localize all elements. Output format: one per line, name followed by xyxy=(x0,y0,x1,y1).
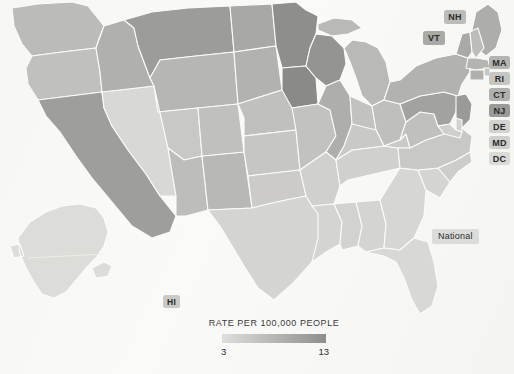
state-CT[interactable] xyxy=(470,70,484,80)
callout-national[interactable]: National xyxy=(432,229,479,244)
state-GA[interactable] xyxy=(380,168,426,250)
callout-VT[interactable]: VT xyxy=(423,31,445,45)
legend-title: RATE PER 100,000 PEOPLE xyxy=(199,318,349,328)
state-FL[interactable] xyxy=(366,238,438,314)
state-CO[interactable] xyxy=(198,104,244,156)
state-WA[interactable] xyxy=(12,2,104,56)
state-ND[interactable] xyxy=(230,4,276,52)
legend-gradient-bar xyxy=(222,334,326,343)
state-KS[interactable] xyxy=(244,130,300,176)
callout-DC[interactable]: DC xyxy=(489,152,510,165)
callout-MD[interactable]: MD xyxy=(489,136,510,149)
legend-tick-labels: 3 13 xyxy=(222,346,326,359)
callout-NH[interactable]: NH xyxy=(444,10,466,24)
callout-CT[interactable]: CT xyxy=(489,88,510,101)
legend: RATE PER 100,000 PEOPLE 3 13 xyxy=(199,318,349,359)
state-VT[interactable] xyxy=(456,32,472,58)
callout-NJ[interactable]: NJ xyxy=(489,104,510,117)
state-NM[interactable] xyxy=(202,152,252,210)
callout-RI[interactable]: RI xyxy=(489,72,510,85)
legend-min-label: 3 xyxy=(221,346,226,357)
state-TX[interactable] xyxy=(208,196,322,300)
callout-MA[interactable]: MA xyxy=(489,56,510,69)
choropleth-map-figure: VT NH MA RI CT NJ DE MD DC National HI R… xyxy=(0,0,514,374)
state-OR[interactable] xyxy=(26,48,102,100)
state-AK[interactable] xyxy=(10,204,112,298)
callout-HI[interactable]: HI xyxy=(163,295,180,308)
callout-DE[interactable]: DE xyxy=(489,120,510,133)
legend-max-label: 13 xyxy=(318,346,329,357)
state-WY[interactable] xyxy=(150,52,238,112)
